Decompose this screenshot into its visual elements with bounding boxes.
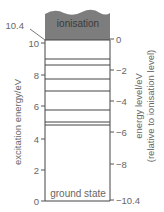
right-tick-label: −6 <box>116 127 127 138</box>
left-tick-label: 4 <box>34 134 39 145</box>
energy-level-diagram: ionisation 10.4 ground state 10 8 6 4 2 … <box>0 0 164 212</box>
left-tick-label: 8 <box>34 70 39 81</box>
right-tick-label: −8 <box>116 159 127 170</box>
ionisation-value-label: 10.4 <box>6 20 25 31</box>
right-tick-label: −10.4 <box>116 195 140 206</box>
ground-state-label: ground state <box>50 188 106 199</box>
left-tick-label: 0 <box>34 196 39 207</box>
energy-levels <box>45 59 110 125</box>
right-tick-label: −2 <box>116 65 127 76</box>
left-tick-label: 2 <box>34 165 39 176</box>
left-tick-label: 6 <box>34 101 39 112</box>
ionisation-label: ionisation <box>57 18 99 29</box>
left-axis-title: excitation energy/eV <box>12 78 23 165</box>
left-tick-label: 10 <box>28 38 39 49</box>
right-axis-subtitle: (relative to ionisation level) <box>145 50 156 162</box>
right-tick-label: 0 <box>116 34 121 45</box>
right-tick-label: −4 <box>116 96 127 107</box>
right-axis-title: energy level/eV <box>133 73 144 139</box>
left-axis-ticks: 10 8 6 4 2 0 <box>28 38 45 207</box>
